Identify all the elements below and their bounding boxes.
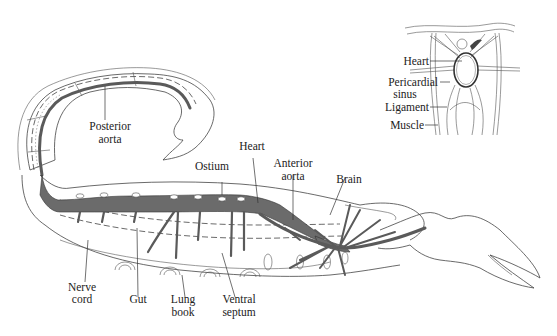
label-posterior-aorta-2: aorta [99,133,122,145]
inset-cross-section: Heart Pericardial sinus Ligament Muscle [385,23,520,135]
circulatory-vessels [40,175,425,275]
label-anterior-aorta-2: aorta [282,170,305,182]
scorpion-circulatory-diagram: Posterior aorta Ostium Heart Anterior ao… [0,0,557,336]
label-ventral-septum-2: septum [222,306,255,319]
label-lung-book-1: Lung [171,293,196,306]
body [22,175,424,277]
inset-heart [454,53,478,87]
label-ventral-septum-1: Ventral [222,293,255,305]
inset-label-ligament: Ligament [385,101,430,114]
label-ostium: Ostium [195,160,229,172]
main-labels: Posterior aorta Ostium Heart Anterior ao… [68,120,362,319]
inset-label-pericardial-sinus-1: Pericardial [388,76,438,88]
label-heart: Heart [239,140,265,152]
pedipalp-claw [345,205,540,288]
heart-vessel [40,175,325,242]
label-nerve-cord-2: cord [72,293,93,305]
label-gut: Gut [129,293,147,305]
label-brain: Brain [336,173,362,185]
label-nerve-cord-1: Nerve [68,281,96,293]
label-lung-book-2: book [172,306,195,318]
label-anterior-aorta-1: Anterior [274,157,313,169]
inset-label-heart: Heart [403,55,429,67]
inset-label-muscle: Muscle [390,119,424,131]
label-posterior-aorta-1: Posterior [89,120,131,132]
inset-label-pericardial-sinus-2: sinus [393,88,417,100]
